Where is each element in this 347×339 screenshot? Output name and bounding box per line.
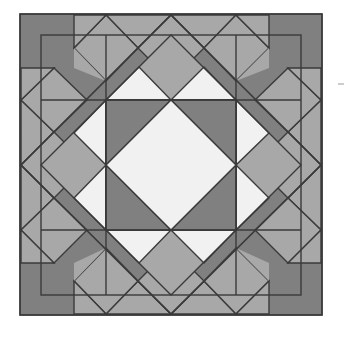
star-center-block bbox=[106, 100, 236, 230]
quilt-block-svg bbox=[0, 0, 347, 339]
quilt-block-figure bbox=[0, 0, 347, 339]
